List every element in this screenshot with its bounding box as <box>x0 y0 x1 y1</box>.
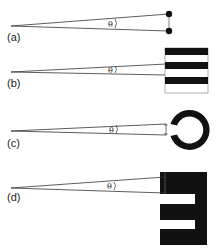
panel-c: θ (c) <box>7 110 210 150</box>
point-dot-bottom <box>166 28 172 34</box>
panel-b: θ (b) <box>7 48 208 93</box>
panel-label: (d) <box>7 191 20 203</box>
upper-ray <box>11 64 166 72</box>
panel-label: (c) <box>7 137 20 149</box>
panel-d: θ (d) <box>7 172 207 245</box>
upper-ray <box>11 177 165 188</box>
theta-label: θ <box>107 182 112 191</box>
panel-label: (b) <box>7 77 20 89</box>
visual-acuity-diagram: θ (a) θ (b) θ (c) θ (d) <box>0 0 216 251</box>
grating-bar-3 <box>165 77 208 84</box>
grating-bar-1 <box>165 48 208 55</box>
ring-inner <box>178 119 200 141</box>
theta-label: θ <box>108 20 113 29</box>
grating-bar-2 <box>165 62 208 69</box>
lower-ray <box>11 72 166 75</box>
theta-label: θ <box>109 126 114 135</box>
lower-ray <box>11 131 166 135</box>
lower-ray <box>11 26 169 31</box>
tumbling-e <box>160 172 207 245</box>
theta-label: θ <box>108 66 113 75</box>
lower-ray <box>11 188 165 193</box>
upper-ray <box>11 14 169 26</box>
angle-arc <box>114 182 116 190</box>
angle-arc <box>115 66 117 73</box>
point-dot-top <box>166 11 172 17</box>
upper-ray <box>11 124 166 131</box>
angle-arc <box>115 19 117 28</box>
panel-a: θ (a) <box>7 11 172 43</box>
panel-label: (a) <box>7 31 20 43</box>
